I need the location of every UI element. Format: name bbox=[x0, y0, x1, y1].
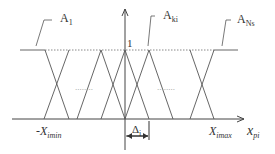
label-xmax: Ximax bbox=[209, 125, 232, 140]
leader-ans bbox=[222, 20, 231, 46]
label-xpi: xpi bbox=[247, 124, 259, 140]
dots-right: ........ bbox=[157, 83, 175, 92]
mf-ans bbox=[190, 50, 238, 119]
label-ans: ANs bbox=[237, 13, 255, 28]
dots-left: ........ bbox=[75, 83, 93, 92]
label-one: 1 bbox=[127, 38, 133, 49]
label-a1: A1 bbox=[60, 12, 73, 27]
label-aki: Aki bbox=[163, 9, 178, 24]
label-xmin: -Ximin bbox=[36, 125, 62, 140]
mf-a1 bbox=[20, 50, 69, 119]
leader-a1 bbox=[36, 20, 52, 46]
leader-aki bbox=[148, 16, 155, 46]
label-delta: Δi bbox=[132, 124, 141, 138]
